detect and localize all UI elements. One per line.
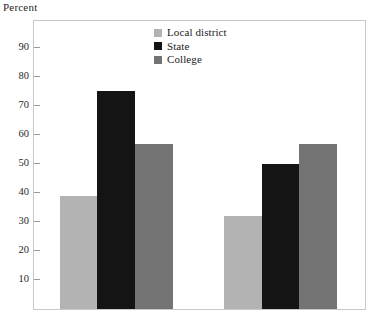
legend-swatch-icon-state <box>154 42 162 50</box>
bar-chart: Percent 90 80 70 60 50 40 30 20 10 <box>0 0 376 320</box>
y-tick-60 <box>34 134 40 135</box>
y-tick-20 <box>34 250 40 251</box>
y-tick-label-30: 30 <box>19 216 30 226</box>
y-tick-label-20: 20 <box>19 245 30 255</box>
y-tick-40 <box>34 192 40 193</box>
bar-group2-college <box>299 144 337 309</box>
bar-group2-local-district <box>224 216 262 309</box>
legend-label-college: College <box>167 53 202 67</box>
y-tick-70 <box>34 105 40 106</box>
bar-group1-college <box>135 144 173 309</box>
legend-swatch-icon-local-district <box>154 29 162 37</box>
y-tick-label-90: 90 <box>19 42 30 52</box>
y-tick-90 <box>34 47 40 48</box>
y-tick-label-70: 70 <box>19 100 30 110</box>
legend-item-college: College <box>154 53 227 67</box>
legend-label-local-district: Local district <box>167 26 227 40</box>
bar-group1-state <box>97 91 135 309</box>
y-tick-50 <box>34 163 40 164</box>
y-tick-label-10: 10 <box>19 274 30 284</box>
y-tick-10 <box>34 279 40 280</box>
legend-label-state: State <box>167 40 190 54</box>
legend-swatch-icon-college <box>154 56 162 64</box>
y-tick-30 <box>34 221 40 222</box>
y-tick-80 <box>34 76 40 77</box>
y-tick-label-80: 80 <box>19 71 30 81</box>
y-axis-labels: 90 80 70 60 50 40 30 20 10 <box>0 0 29 320</box>
legend-item-state: State <box>154 40 227 54</box>
bar-group2-state <box>262 164 299 309</box>
y-tick-label-40: 40 <box>19 187 30 197</box>
y-tick-label-60: 60 <box>19 129 30 139</box>
y-tick-label-50: 50 <box>19 158 30 168</box>
legend: Local district State College <box>154 26 227 67</box>
legend-item-local-district: Local district <box>154 26 227 40</box>
bar-group1-local-district <box>60 196 97 309</box>
